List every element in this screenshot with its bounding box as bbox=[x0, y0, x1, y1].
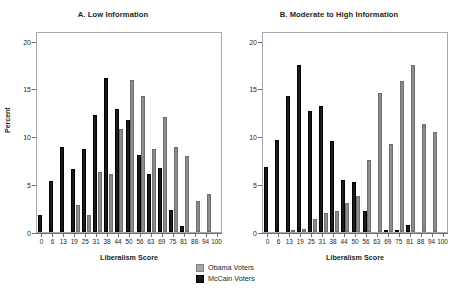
x-axis-tick bbox=[432, 233, 433, 237]
bar-mccain bbox=[319, 106, 323, 232]
bar-mccain bbox=[275, 140, 279, 232]
bar-mccain bbox=[49, 181, 53, 232]
legend-label-mccain: McCain Voters bbox=[208, 274, 255, 283]
y-axis-tick bbox=[258, 185, 262, 186]
x-axis-tick-label: 81 bbox=[406, 238, 413, 245]
x-axis-tick-label: 63 bbox=[373, 238, 380, 245]
x-axis-tick bbox=[195, 233, 196, 237]
x-axis-tick-label: 44 bbox=[340, 238, 347, 245]
panel-b-y-axis: 05101520 bbox=[262, 32, 263, 233]
x-axis-tick bbox=[443, 233, 444, 237]
bar-obama bbox=[87, 215, 91, 232]
bar-mccain bbox=[308, 111, 312, 232]
y-axis-tick bbox=[258, 89, 262, 90]
bar-obama bbox=[433, 132, 437, 233]
bar-obama bbox=[345, 203, 349, 232]
x-axis-tick-label: 31 bbox=[319, 238, 326, 245]
y-axis-tick bbox=[258, 137, 262, 138]
y-axis-tick-label: 15 bbox=[249, 86, 257, 93]
panel-a-plot-frame bbox=[36, 32, 222, 233]
bar-mccain bbox=[169, 210, 173, 232]
y-axis-tick bbox=[32, 185, 36, 186]
bar-mccain bbox=[93, 115, 97, 232]
bar-obama bbox=[207, 194, 211, 232]
bar-obama bbox=[185, 156, 189, 232]
x-axis-tick-label: 6 bbox=[277, 238, 281, 245]
x-axis-tick-label: 38 bbox=[104, 238, 111, 245]
bar-mccain bbox=[384, 230, 388, 232]
y-axis-tick-label: 20 bbox=[23, 38, 31, 45]
panel-a-bars bbox=[37, 33, 221, 232]
y-axis-tick-label: 0 bbox=[27, 230, 31, 237]
legend-item-obama: Obama Voters bbox=[196, 262, 316, 273]
x-axis-tick bbox=[173, 233, 174, 237]
x-axis-tick-label: 100 bbox=[211, 238, 222, 245]
x-axis-tick-label: 56 bbox=[136, 238, 143, 245]
panel-a-x-axis-label: Liberalism Score bbox=[36, 253, 222, 262]
x-axis-tick-label: 13 bbox=[60, 238, 67, 245]
panel-a-title: A. Low Information bbox=[0, 10, 226, 19]
bar-obama bbox=[141, 96, 145, 232]
x-axis-tick-label: 75 bbox=[395, 238, 402, 245]
y-axis-tick bbox=[258, 42, 262, 43]
panel-a-y-axis-label: Percent bbox=[4, 107, 11, 133]
x-axis-tick-label: 44 bbox=[114, 238, 121, 245]
x-axis-tick bbox=[129, 233, 130, 237]
bar-obama bbox=[400, 81, 404, 232]
bar-obama bbox=[411, 65, 415, 233]
panel-b-plot-frame bbox=[262, 32, 448, 233]
bar-obama bbox=[119, 129, 123, 232]
bar-mccain bbox=[115, 109, 119, 232]
x-axis-tick-label: 94 bbox=[428, 238, 435, 245]
legend-label-obama: Obama Voters bbox=[208, 263, 254, 272]
panel-a-x-axis: 061319253138445056636975818894100 bbox=[36, 233, 222, 234]
x-axis-tick-label: 25 bbox=[308, 238, 315, 245]
y-axis-tick-label: 20 bbox=[249, 38, 257, 45]
bar-mccain bbox=[297, 65, 301, 233]
x-axis-tick-label: 69 bbox=[158, 238, 165, 245]
x-axis-tick-label: 38 bbox=[330, 238, 337, 245]
bar-obama bbox=[367, 160, 371, 232]
x-axis-tick-label: 19 bbox=[297, 238, 304, 245]
panel-a-y-axis: 05101520 bbox=[36, 32, 37, 233]
x-axis-tick bbox=[63, 233, 64, 237]
bar-mccain bbox=[158, 168, 162, 232]
x-axis-tick-label: 13 bbox=[286, 238, 293, 245]
bar-mccain bbox=[71, 169, 75, 232]
bar-obama bbox=[324, 213, 328, 232]
x-axis-tick bbox=[421, 233, 422, 237]
x-axis-tick-label: 88 bbox=[417, 238, 424, 245]
y-axis-tick-label: 15 bbox=[23, 86, 31, 93]
bar-obama bbox=[335, 211, 339, 232]
chart-legend: Obama Voters McCain Voters bbox=[196, 262, 316, 284]
panel-a: A. Low Information Percent 05101520 0613… bbox=[0, 0, 226, 262]
bar-obama bbox=[356, 196, 360, 232]
y-axis-tick-label: 0 bbox=[253, 230, 257, 237]
x-axis-tick-label: 81 bbox=[180, 238, 187, 245]
bar-obama bbox=[291, 230, 295, 232]
y-axis-tick-label: 5 bbox=[27, 182, 31, 189]
x-axis-tick bbox=[206, 233, 207, 237]
x-axis-tick bbox=[410, 233, 411, 237]
bar-obama bbox=[174, 147, 178, 232]
x-axis-tick bbox=[217, 233, 218, 237]
bar-obama bbox=[313, 219, 317, 232]
x-axis-tick-label: 0 bbox=[40, 238, 44, 245]
bar-obama bbox=[130, 80, 134, 232]
bar-mccain bbox=[286, 96, 290, 232]
x-axis-tick bbox=[162, 233, 163, 237]
x-axis-tick-label: 88 bbox=[191, 238, 198, 245]
bar-obama bbox=[98, 172, 102, 232]
x-axis-tick bbox=[333, 233, 334, 237]
figure-container: A. Low Information Percent 05101520 0613… bbox=[0, 0, 452, 292]
x-axis-tick bbox=[377, 233, 378, 237]
bar-obama bbox=[152, 149, 156, 232]
bar-mccain bbox=[352, 182, 356, 232]
bar-obama bbox=[109, 174, 113, 232]
legend-swatch-obama-icon bbox=[196, 264, 204, 272]
x-axis-tick bbox=[85, 233, 86, 237]
x-axis-tick bbox=[388, 233, 389, 237]
x-axis-tick bbox=[355, 233, 356, 237]
bar-obama bbox=[389, 144, 393, 232]
x-axis-tick bbox=[52, 233, 53, 237]
